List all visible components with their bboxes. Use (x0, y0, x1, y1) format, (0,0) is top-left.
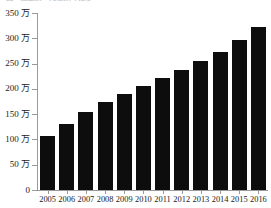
x-axis-tick-label: 2016 (249, 195, 268, 205)
x-axis-tick (48, 191, 49, 194)
bar-chart: 050 万100 万150 万200 万250 万300 万350 万 2005… (0, 0, 271, 208)
x-axis-tick-label: 2010 (134, 195, 153, 205)
x-axis-tick (201, 191, 202, 194)
x-axis-tick-label: 2015 (230, 195, 249, 205)
bar (213, 52, 228, 190)
bar (98, 102, 113, 191)
y-axis-tick-label: 350 万 (5, 9, 30, 18)
y-axis-tick (32, 64, 37, 65)
x-axis-tick-label: 2005 (38, 195, 57, 205)
x-axis-tick-label: 2008 (96, 195, 115, 205)
bar (232, 40, 247, 190)
x-axis-tick (105, 191, 106, 194)
x-axis-tick-label: 2014 (211, 195, 230, 205)
x-axis-tick-label: 2007 (76, 195, 95, 205)
y-axis-tick-label: 150 万 (5, 110, 30, 119)
x-axis-tick (67, 191, 68, 194)
bar (40, 136, 55, 190)
x-axis-tick (258, 191, 259, 194)
x-axis-tick (239, 191, 240, 194)
y-axis-tick-label: 200 万 (5, 84, 30, 93)
bar (136, 86, 151, 190)
bar (193, 61, 208, 190)
x-axis-tick-label: 2006 (57, 195, 76, 205)
y-axis-tick (32, 114, 37, 115)
y-axis-tick (32, 89, 37, 90)
y-axis-tick (32, 190, 37, 191)
y-axis-tick-label: 50 万 (10, 160, 30, 169)
bar (78, 112, 93, 190)
bar (117, 94, 132, 190)
bar (155, 78, 170, 190)
x-axis-tick (163, 191, 164, 194)
y-axis-tick (32, 38, 37, 39)
y-axis-tick-label: 250 万 (5, 59, 30, 68)
y-axis-tick (32, 165, 37, 166)
x-axis-line (37, 190, 268, 191)
x-axis-tick-label: 2013 (191, 195, 210, 205)
y-axis-line (37, 13, 38, 191)
x-axis-tick (182, 191, 183, 194)
bar (59, 124, 74, 190)
x-axis-tick (220, 191, 221, 194)
bar (174, 70, 189, 190)
y-axis-tick (32, 13, 37, 14)
y-axis-tick-label: 300 万 (5, 34, 30, 43)
x-axis-tick (143, 191, 144, 194)
y-axis-tick (32, 139, 37, 140)
x-axis-tick-label: 2009 (115, 195, 134, 205)
x-axis-tick-label: 2011 (153, 195, 172, 205)
y-axis-tick-label: 100 万 (5, 135, 30, 144)
x-axis-tick-label: 2012 (172, 195, 191, 205)
x-axis-tick (86, 191, 87, 194)
bar (251, 27, 266, 190)
y-axis-tick-label: 0 (26, 186, 31, 195)
x-axis-tick (124, 191, 125, 194)
